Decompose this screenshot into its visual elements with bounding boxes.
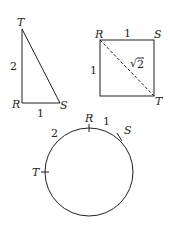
triangle-vertex-T: T (17, 16, 26, 29)
circle-point-T: T (32, 166, 41, 179)
unit-square: R S T 1 1 √ 2 (90, 27, 164, 108)
circle-shape (45, 128, 133, 216)
square-side-top-label: 1 (124, 27, 131, 40)
triangle-side-RT-label: 2 (10, 60, 17, 73)
triangle-shape (22, 29, 60, 103)
triangle-side-RS-label: 1 (37, 107, 44, 120)
square-vertex-T: T (155, 95, 164, 108)
square-side-left-label: 1 (90, 64, 97, 77)
circle-figure: R S T 1 2 (32, 112, 133, 216)
circle-point-R: R (84, 112, 93, 125)
right-triangle: T R S 2 1 (10, 16, 68, 120)
circle-point-S: S (124, 124, 132, 137)
triangle-vertex-S: S (60, 99, 68, 112)
square-vertex-R: R (94, 28, 103, 41)
square-diagonal (100, 40, 154, 96)
circle-arc-TR-label: 2 (51, 127, 58, 140)
figure-canvas: T R S 2 1 R S T 1 1 √ 2 R S T 1 2 (0, 0, 171, 225)
square-diagonal-label: 2 (137, 58, 144, 71)
square-vertex-S: S (154, 28, 162, 41)
circle-arc-RS-label: 1 (103, 115, 110, 128)
triangle-vertex-R: R (11, 98, 20, 111)
